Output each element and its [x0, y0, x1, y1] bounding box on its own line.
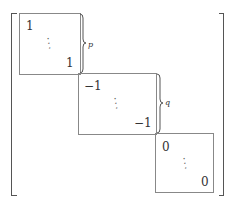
brace-label-q: q [165, 98, 170, 107]
block1-dots: ⋱ [42, 36, 55, 49]
left-bracket [11, 13, 17, 196]
identity-block: 1 ⋱ 1 [19, 13, 81, 75]
block2-dots: ⋱ [109, 96, 122, 109]
right-bracket [219, 13, 224, 196]
negative-identity-block: −1 ⋱ −1 [78, 73, 157, 135]
brace-label-p: p [88, 40, 93, 49]
zero-block: 0 ⋱ 0 [155, 133, 214, 193]
block1-top-left: 1 [26, 20, 34, 32]
block3-dots: ⋱ [178, 156, 191, 169]
block2-top-left: −1 [84, 80, 102, 92]
block2-bottom-right: −1 [134, 117, 152, 129]
block3-top-left: 0 [162, 141, 170, 153]
block3-bottom-right: 0 [201, 176, 209, 188]
block1-bottom-right: 1 [66, 57, 74, 69]
